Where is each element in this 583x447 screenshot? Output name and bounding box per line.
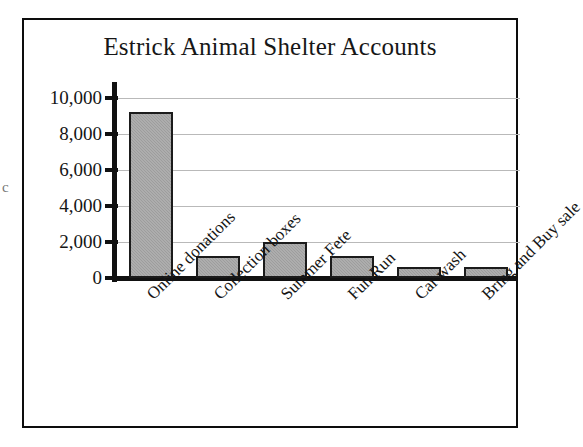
x-axis-category-labels: Online donationsCollection boxesSummer F… — [24, 284, 520, 430]
y-axis-tick-label: 10,000 — [22, 88, 102, 107]
y-axis-tick-mark — [105, 276, 118, 280]
y-axis-tick-label: 2,000 — [22, 232, 102, 251]
y-axis-tick-mark — [105, 204, 118, 208]
y-axis-tick-mark — [105, 240, 118, 244]
y-axis-tick-label: 6,000 — [22, 160, 102, 179]
y-axis-tick-label: 4,000 — [22, 196, 102, 215]
y-axis-tick-mark — [105, 132, 118, 136]
y-axis-tick-mark — [105, 168, 118, 172]
bar — [129, 112, 173, 278]
chart-frame: Estrick Animal Shelter Accounts 02,0004,… — [22, 18, 518, 428]
y-axis-tick-mark — [105, 96, 118, 100]
y-axis-tick-label: 8,000 — [22, 124, 102, 143]
page-margin-text-fragment: c — [2, 176, 16, 198]
